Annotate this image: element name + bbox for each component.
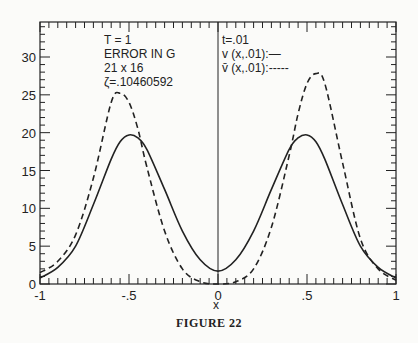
legend-dashed-entry: v̄ (x,.01):----- bbox=[222, 61, 289, 75]
y-tick-label: 10 bbox=[22, 201, 36, 216]
y-tick-label: 25 bbox=[22, 88, 36, 103]
y-tick-label: 5 bbox=[29, 239, 36, 254]
y-tick-label: 15 bbox=[22, 164, 36, 179]
legend-time: t=.01 bbox=[222, 33, 249, 47]
x-tick-label: .5 bbox=[302, 288, 313, 303]
annotation-left: T = 1 ERROR IN G 21 x 16 ζ=.10460592 bbox=[104, 33, 175, 89]
x-tick-label: -1 bbox=[34, 288, 46, 303]
x-tick-label: -.5 bbox=[121, 288, 136, 303]
annotation-grid: 21 x 16 bbox=[104, 61, 144, 75]
x-axis-label: x bbox=[213, 298, 219, 312]
y-tick-label: 20 bbox=[22, 126, 36, 141]
x-tick-label: 1 bbox=[392, 288, 399, 303]
annotation-zeta: ζ=.10460592 bbox=[104, 75, 173, 89]
y-tick-labels: 051015202530 bbox=[22, 50, 36, 292]
figure-caption: FIGURE 22 bbox=[0, 316, 418, 331]
legend: t=.01 v (x,.01):— v̄ (x,.01):----- bbox=[222, 33, 289, 75]
annotation-T: T = 1 bbox=[104, 33, 132, 47]
annotation-error: ERROR IN G bbox=[104, 47, 175, 61]
y-tick-label: 30 bbox=[22, 50, 36, 65]
chart-figure: 051015202530 -1-.50.51 T = 1 ERROR IN G … bbox=[0, 0, 418, 343]
plot-frame bbox=[40, 22, 396, 284]
legend-solid-entry: v (x,.01):— bbox=[222, 47, 281, 61]
